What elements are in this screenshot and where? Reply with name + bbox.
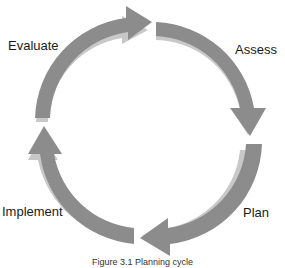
stage-label-assess: Assess xyxy=(235,42,277,57)
stage-label-implement: Implement xyxy=(2,204,63,219)
figure-caption: Figure 3.1 Planning cycle xyxy=(0,257,285,267)
stage-label-evaluate: Evaluate xyxy=(8,38,59,53)
arrow-plan-to-implement xyxy=(140,144,262,256)
arrow-evaluate-to-assess xyxy=(35,6,152,118)
stage-label-plan: Plan xyxy=(243,205,269,220)
arrows xyxy=(28,6,266,256)
arrow-implement-to-evaluate xyxy=(28,126,134,244)
